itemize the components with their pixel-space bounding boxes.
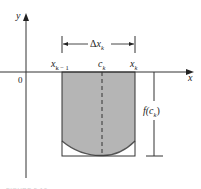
x-k-label: xk: [129, 58, 137, 71]
x-k-minus-1-label: xk − 1: [50, 58, 69, 71]
y-axis-label: y: [15, 10, 21, 21]
delta-right-arrow-icon: [129, 42, 134, 46]
y-axis-arrow-icon: [23, 13, 29, 21]
x-axis-label: x: [187, 72, 193, 83]
origin-label: 0: [18, 75, 23, 85]
f-of-c-k-label: f(ck): [143, 105, 160, 118]
riemann-rectangle-diagram: y x 0 Δxk xk − 1 ck xk f(ck) FIGURE 5.10: [0, 0, 201, 189]
delta-left-arrow-icon: [63, 42, 68, 46]
shaded-region: [62, 72, 135, 156]
c-k-label: ck: [98, 58, 105, 71]
figure-caption: FIGURE 5.10: [6, 187, 48, 189]
delta-x-label: Δxk: [90, 38, 104, 51]
